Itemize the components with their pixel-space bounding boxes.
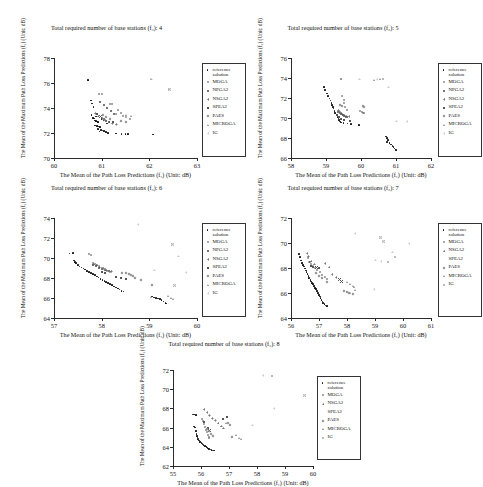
legend-marker-icon xyxy=(442,239,447,246)
legend-item[interactable]: SPEA2 xyxy=(442,104,480,111)
legend-item[interactable]: NPGA2 xyxy=(206,247,244,254)
y-axis-title: The Mean of the Maximum Path Loss Predic… xyxy=(257,18,263,158)
y-tick-label: 64 xyxy=(157,443,169,450)
legend-item[interactable]: PAES xyxy=(442,264,480,271)
legend-item[interactable]: reference solution xyxy=(206,67,244,77)
x-tick-label: 55 xyxy=(170,470,176,477)
legend-marker-icon xyxy=(442,104,447,111)
legend-item[interactable]: NSGA2 xyxy=(206,96,244,103)
legend-item[interactable]: IG xyxy=(321,434,359,441)
legend-marker-icon xyxy=(442,87,447,94)
legend-item[interactable]: MICROGA xyxy=(321,426,359,433)
legend-item[interactable]: reference solution xyxy=(442,227,480,237)
legend-item[interactable]: reference solution xyxy=(442,67,480,77)
data-point xyxy=(354,232,357,235)
x-tick xyxy=(173,466,174,469)
y-tick-label: 64 xyxy=(38,315,50,322)
legend-label: SPEA2 xyxy=(213,264,227,269)
y-tick-label: 66 xyxy=(275,290,287,297)
legend-item[interactable]: MOGA xyxy=(206,79,244,86)
data-point xyxy=(168,88,171,91)
legend-item[interactable]: PAES xyxy=(321,417,359,424)
legend-label: MICROGA xyxy=(213,281,236,286)
legend-item[interactable]: NPGA2 xyxy=(442,87,480,94)
legend-label: NPGA2 xyxy=(213,87,229,92)
legend-marker-icon xyxy=(442,227,447,234)
y-tick-label: 76 xyxy=(275,55,287,62)
data-point xyxy=(171,243,174,246)
y-tick-label: 78 xyxy=(38,55,50,62)
legend-item[interactable]: MOGA xyxy=(442,239,480,246)
x-tick-label: 59 xyxy=(146,322,152,329)
y-tick xyxy=(170,466,173,467)
legend-marker-icon xyxy=(321,434,326,441)
y-tick-label: 72 xyxy=(275,95,287,102)
series-ig xyxy=(291,218,431,318)
legend-item[interactable]: NSGA2 xyxy=(321,400,359,407)
x-tick xyxy=(197,158,198,161)
legend-item[interactable]: MICROGA xyxy=(442,273,480,280)
legend-label: PAES xyxy=(328,417,340,422)
legend-label: SPEA2 xyxy=(213,104,227,109)
x-tick xyxy=(285,466,286,469)
legend-marker-icon xyxy=(206,113,211,120)
y-tick-label: 70 xyxy=(275,240,287,247)
legend-item[interactable]: MOGA xyxy=(442,79,480,86)
legend-item[interactable]: MOGA xyxy=(321,392,359,399)
legend-item[interactable]: IG xyxy=(206,290,244,297)
legend-marker-icon xyxy=(442,113,447,120)
x-tick-label: 61 xyxy=(98,162,104,169)
legend-item[interactable]: reference solution xyxy=(321,380,359,390)
x-tick xyxy=(149,318,150,321)
series-ig xyxy=(291,58,431,158)
legend-item[interactable]: SPEA2 xyxy=(206,264,244,271)
legend-item[interactable]: PAES xyxy=(442,113,480,120)
legend-label: reference solution xyxy=(449,227,467,237)
legend-item[interactable]: SPEA2 xyxy=(442,256,480,263)
legend-item[interactable]: MICROGA xyxy=(206,121,244,128)
data-point xyxy=(380,260,383,263)
y-tick-label: 66 xyxy=(38,295,50,302)
legend-marker-icon xyxy=(321,417,326,424)
legend-item[interactable]: MICROGA xyxy=(442,121,480,128)
x-tick xyxy=(326,158,327,161)
data-point xyxy=(262,374,265,377)
legend-marker-icon xyxy=(442,130,447,137)
x-tick xyxy=(291,318,292,321)
x-axis-line xyxy=(54,158,197,159)
legend-label: NPGA2 xyxy=(213,247,229,252)
legend-item[interactable]: MICROGA xyxy=(206,281,244,288)
legend-item[interactable]: PAES xyxy=(206,113,244,120)
plot-area: 555657585960626466687072 xyxy=(173,370,313,466)
x-tick-label: 57 xyxy=(316,322,322,329)
y-tick-label: 72 xyxy=(157,367,169,374)
x-tick-label: 58 xyxy=(344,322,350,329)
legend-item[interactable]: reference solution xyxy=(206,227,244,237)
legend-item[interactable]: NSGA2 xyxy=(206,256,244,263)
y-tick xyxy=(51,318,54,319)
legend-item[interactable]: NPGA2 xyxy=(206,87,244,94)
legend-marker-icon xyxy=(206,67,211,74)
y-tick xyxy=(288,158,291,159)
legend-item[interactable]: NSGA2 xyxy=(442,96,480,103)
data-point xyxy=(358,78,361,81)
legend-item[interactable]: IG xyxy=(206,130,244,137)
legend-item[interactable]: NSGA2 xyxy=(442,247,480,254)
legend-item[interactable]: IG xyxy=(442,281,480,288)
data-point xyxy=(273,407,276,410)
legend-item[interactable]: SPEA2 xyxy=(206,104,244,111)
y-tick-label: 74 xyxy=(38,215,50,222)
legend-marker-icon xyxy=(206,264,211,271)
legend-marker-icon xyxy=(206,273,211,280)
plot-area: 5859606162666870727476 xyxy=(291,58,431,158)
x-tick xyxy=(102,318,103,321)
legend-item[interactable]: SPEA2 xyxy=(321,409,359,416)
legend-item[interactable]: MOGA xyxy=(206,239,244,246)
panel-f3-8: Total required number of base stations (… xyxy=(125,338,359,480)
legend-item[interactable]: PAES xyxy=(206,273,244,280)
legend-item[interactable]: IG xyxy=(442,130,480,137)
legend-label: MOGA xyxy=(213,239,228,244)
legend-label: PAES xyxy=(213,273,225,278)
legend-label: PAES xyxy=(449,264,461,269)
x-tick-label: 56 xyxy=(198,470,204,477)
